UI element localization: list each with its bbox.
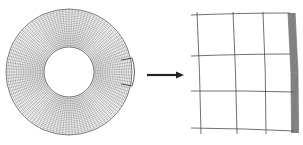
zoomed-boundary-mesh (191, 12, 299, 134)
arrow-icon (147, 72, 184, 79)
annulus-mesh (6, 9, 132, 135)
mesh-diagram (0, 0, 303, 145)
